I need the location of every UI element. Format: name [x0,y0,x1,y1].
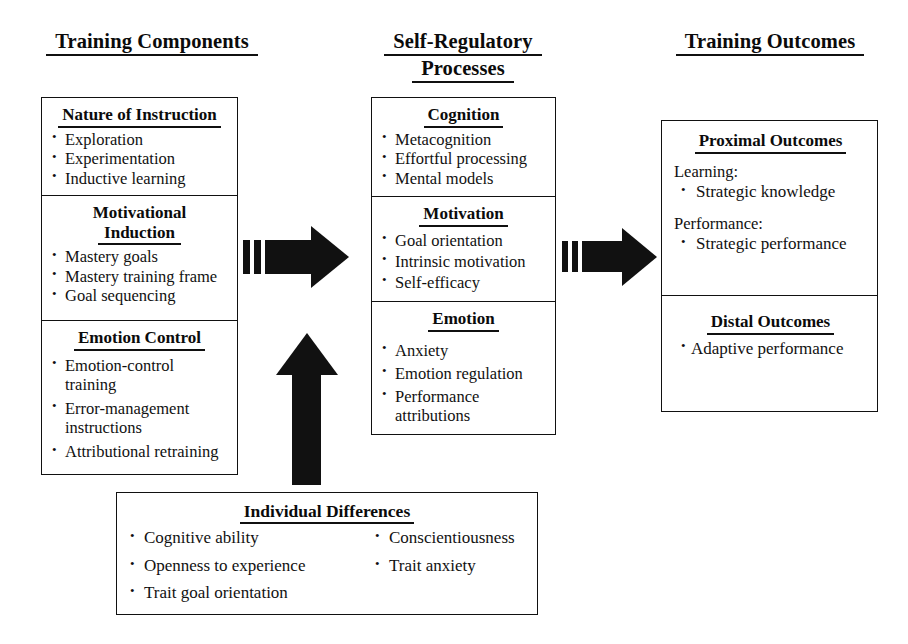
list-motivation: Goal orientation Intrinsic motivation Se… [380,231,547,292]
list-distal-outcomes: Adaptive performance [674,339,867,359]
header-training-components: Training Components [24,30,280,56]
list-item: Goal sequencing [50,286,229,305]
cell-title-distal-outcomes: Distal Outcomes [674,312,867,335]
spacer [674,203,867,214]
arrow-shaft [582,241,624,272]
sublabel-learning: Learning: [674,162,867,181]
list-item: Effortful processing [380,149,547,168]
list-item: Strategic performance [674,234,867,254]
list-item: Trait goal orientation [127,583,372,603]
individual-differences-columns: Cognitive ability Openness to experience… [127,527,527,610]
list-item: Strategic knowledge [674,182,867,202]
list-item: Emotion regulation [380,364,547,383]
cell-cognition: Cognition Metacognition Effortful proces… [372,98,555,197]
header-training-outcomes: Training Outcomes [650,30,890,56]
list-motivational-induction: Mastery goals Mastery training frame Goa… [50,247,229,305]
sublabel-performance: Performance: [674,214,867,233]
cell-title-motivation: Motivation [380,204,547,227]
list-item: Self-efficacy [380,273,547,292]
cell-motivational-induction: Motivational Induction Mastery goals Mas… [42,196,237,321]
cell-title-emotion-control: Emotion Control [50,328,229,351]
self-regulatory-processes-box: Cognition Metacognition Effortful proces… [371,97,556,435]
list-item: Adaptive performance [674,339,867,359]
cell-motivation: Motivation Goal orientation Intrinsic mo… [372,197,555,302]
cell-proximal-outcomes: Proximal Outcomes Learning: Strategic kn… [662,121,877,296]
list-item: Anxiety [380,341,547,360]
list-nature-of-instruction: Exploration Experimentation Inductive le… [50,130,229,188]
list-item: Error-management instructions [50,399,229,437]
training-outcomes-box: Proximal Outcomes Learning: Strategic kn… [661,120,878,412]
header-self-regulatory-line1: Self-Regulatory [384,30,541,56]
list-emotion-control: Emotion-control training Error-managemen… [50,356,229,462]
arrow-tail-bar-1 [243,240,250,274]
list-item: Openness to experience [127,556,372,576]
individual-differences-box: Individual Differences Cognitive ability… [116,492,538,615]
list-item: Conscientiousness [372,528,515,548]
list-item: Mental models [380,169,547,188]
header-training-outcomes-text: Training Outcomes [676,30,864,56]
individual-differences-column-left: Cognitive ability Openness to experience… [127,527,372,610]
list-item: Exploration [50,130,229,149]
list-item: Cognitive ability [127,528,372,548]
cell-emotion-control: Emotion Control Emotion-control training… [42,321,237,473]
list-item: Attributional retraining [50,442,229,461]
arrow-tail-bar-2 [254,240,261,274]
header-self-regulatory-line2: Processes [412,57,514,83]
arrow-head [622,228,657,286]
training-components-box: Nature of Instruction Exploration Experi… [41,97,238,475]
list-item: Goal orientation [380,231,547,250]
list-item: Mastery training frame [50,267,229,286]
list-item: Trait anxiety [372,556,515,576]
diagram-canvas: Training Components Self-Regulatory Proc… [0,0,908,644]
cell-emotion: Emotion Anxiety Emotion regulation Perfo… [372,302,555,436]
header-self-regulatory-processes: Self-Regulatory Processes [355,30,571,83]
list-individual-differences-right: Conscientiousness Trait anxiety [372,528,515,576]
list-item: Inductive learning [50,169,229,188]
cell-title-nature-of-instruction: Nature of Instruction [50,105,229,128]
arrow-shaft [265,240,313,274]
cell-title-proximal-outcomes: Proximal Outcomes [674,131,867,154]
arrow-components-to-processes-icon [243,226,349,288]
list-item: Experimentation [50,149,229,168]
arrow-shaft [292,373,321,485]
cell-title-cognition: Cognition [380,105,547,128]
list-item: Emotion-control training [50,356,229,394]
cell-nature-of-instruction: Nature of Instruction Exploration Experi… [42,98,237,196]
list-emotion: Anxiety Emotion regulation Performance a… [380,341,547,426]
arrow-head [276,333,338,375]
list-proximal-learning: Strategic knowledge [674,182,867,202]
list-item: Intrinsic motivation [380,252,547,271]
list-item: Performance attributions [380,387,547,425]
arrow-processes-to-outcomes-icon [562,228,658,286]
individual-differences-column-right: Conscientiousness Trait anxiety [372,527,515,610]
list-item: Mastery goals [50,247,229,266]
cell-distal-outcomes: Distal Outcomes Adaptive performance [662,296,877,413]
arrow-head [311,226,349,288]
list-proximal-performance: Strategic performance [674,234,867,254]
list-item: Metacognition [380,130,547,149]
cell-title-individual-differences: Individual Differences [127,501,527,524]
header-training-components-text: Training Components [46,30,257,56]
arrow-individual-differences-up-icon [276,333,338,485]
cell-title-motivational-induction: Motivational Induction [50,203,229,245]
arrow-tail-bar-2 [572,241,578,272]
list-individual-differences-left: Cognitive ability Openness to experience… [127,528,372,603]
list-cognition: Metacognition Effortful processing Menta… [380,130,547,188]
arrow-tail-bar-1 [562,241,568,272]
cell-title-emotion: Emotion [380,309,547,332]
